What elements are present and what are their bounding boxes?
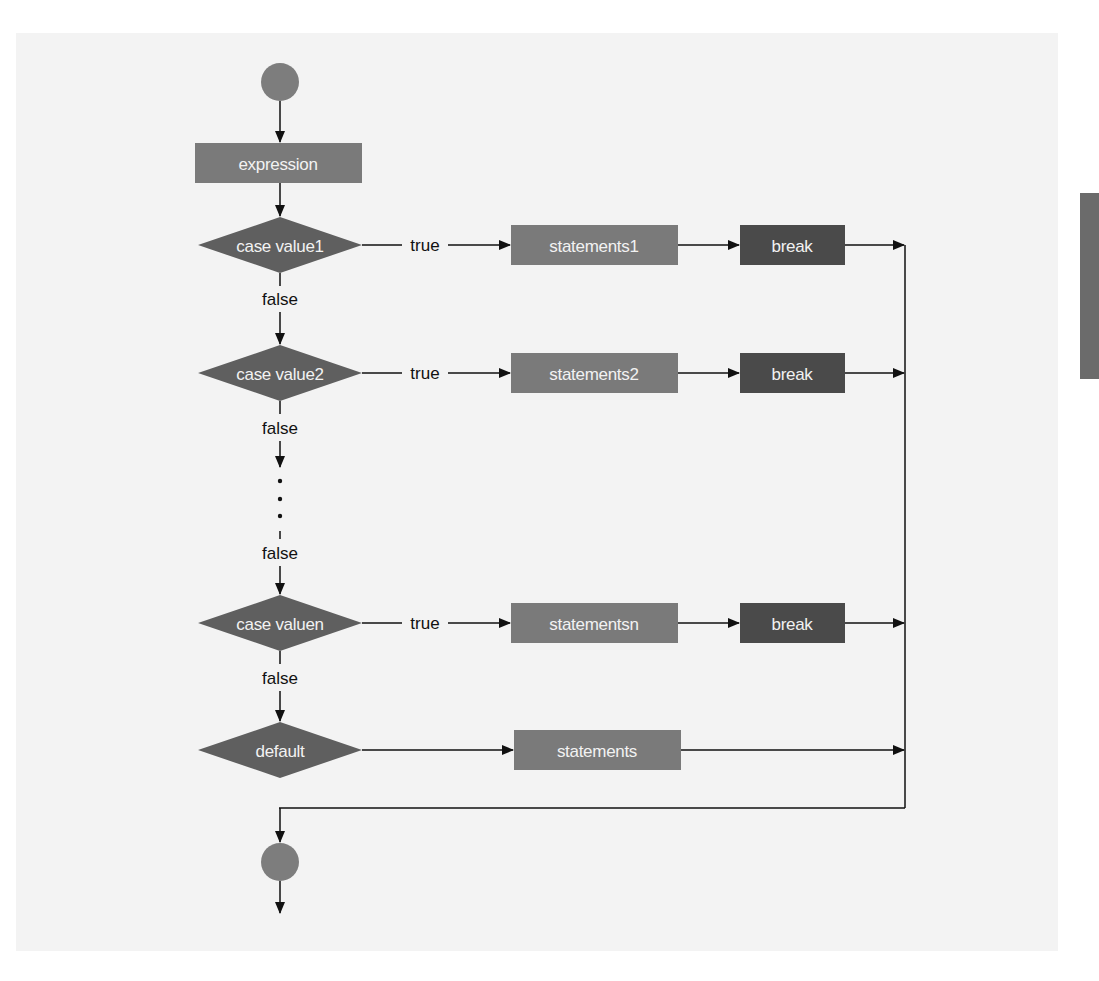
break2-node: break bbox=[740, 353, 845, 393]
ellipsis-dots bbox=[278, 479, 282, 518]
expression-label: expression bbox=[238, 155, 317, 174]
end-node-circle bbox=[261, 843, 299, 881]
statements2-node: statements2 bbox=[511, 353, 678, 393]
breakn-label: break bbox=[771, 615, 813, 634]
false-label-2: false bbox=[262, 419, 298, 438]
breakn-node: break bbox=[740, 603, 845, 643]
case-value1-decision: case value1 bbox=[198, 217, 362, 273]
false-label-ellipsis: false bbox=[262, 544, 298, 563]
false-label-n: false bbox=[262, 669, 298, 688]
case-value2-decision: case value2 bbox=[198, 345, 362, 401]
statements1-node: statements1 bbox=[511, 225, 678, 265]
default-decision: default bbox=[198, 722, 362, 778]
true-label-2: true bbox=[410, 364, 439, 383]
case-valuen-decision: case valuen bbox=[198, 595, 362, 651]
start-node-circle bbox=[261, 63, 299, 101]
switch-activity-diagram: expression case value1 true statements1 … bbox=[0, 0, 1099, 981]
case-value2-label: case value2 bbox=[236, 365, 323, 384]
break1-node: break bbox=[740, 225, 845, 265]
statements1-label: statements1 bbox=[549, 237, 638, 256]
true-label-n: true bbox=[410, 614, 439, 633]
false-label-1: false bbox=[262, 290, 298, 309]
default-label: default bbox=[256, 742, 306, 761]
break1-label: break bbox=[771, 237, 813, 256]
expression-node: expression bbox=[195, 143, 362, 183]
statementsn-label: statementsn bbox=[549, 615, 638, 634]
statements-default-node: statements bbox=[514, 730, 681, 770]
true-label-1: true bbox=[410, 236, 439, 255]
statements2-label: statements2 bbox=[549, 365, 638, 384]
case-value1-label: case value1 bbox=[236, 237, 323, 256]
statements-default-label: statements bbox=[557, 742, 637, 761]
statementsn-node: statementsn bbox=[511, 603, 678, 643]
case-valuen-label: case valuen bbox=[236, 615, 323, 634]
break2-label: break bbox=[771, 365, 813, 384]
